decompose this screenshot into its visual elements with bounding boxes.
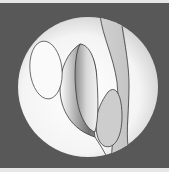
endoscopic-view-illustration	[0, 0, 169, 172]
